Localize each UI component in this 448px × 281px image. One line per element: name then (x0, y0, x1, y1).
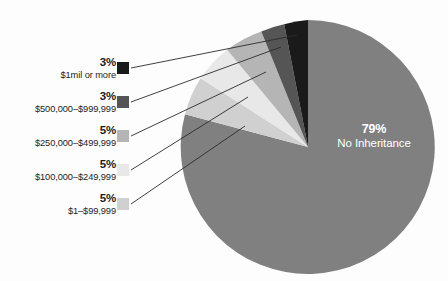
legend-percent: 5% (4, 124, 116, 136)
legend-text: 3% $500,000–$999,999 (4, 90, 116, 115)
legend-range: $250,000–$499,999 (4, 137, 116, 149)
legend-range: $100,000–$249,999 (4, 171, 116, 183)
legend-range: $1–$99,999 (4, 205, 116, 217)
legend-swatch-icon (117, 96, 129, 108)
legend-text: 5% $250,000–$499,999 (4, 124, 116, 149)
legend-percent: 3% (4, 90, 116, 102)
legend-range: $1mil or more (4, 69, 116, 81)
legend-text: 5% $100,000–$249,999 (4, 158, 116, 183)
legend-percent: 5% (4, 158, 116, 170)
legend-item-500000-999999[interactable]: 3% $500,000–$999,999 (0, 90, 140, 120)
legend-swatch-icon (117, 130, 129, 142)
legend-text: 5% $1–$99,999 (4, 192, 116, 217)
legend-swatch-icon (117, 164, 129, 176)
legend-item-1-99999[interactable]: 5% $1–$99,999 (0, 192, 140, 222)
legend-percent: 5% (4, 192, 116, 204)
legend-item-250000-499999[interactable]: 5% $250,000–$499,999 (0, 124, 140, 154)
legend-percent: 3% (4, 56, 116, 68)
pie-chart-figure: 79% No Inheritance 3% $1mil or more 3% $… (0, 0, 448, 281)
pie-slices (181, 20, 435, 274)
legend-item-1mil-or-more[interactable]: 3% $1mil or more (0, 56, 140, 86)
legend-range: $500,000–$999,999 (4, 103, 116, 115)
legend: 3% $1mil or more 3% $500,000–$999,999 5%… (0, 0, 140, 281)
legend-swatch-icon (117, 62, 129, 74)
legend-text: 3% $1mil or more (4, 56, 116, 81)
legend-item-100000-249999[interactable]: 5% $100,000–$249,999 (0, 158, 140, 188)
legend-swatch-icon (117, 198, 129, 210)
